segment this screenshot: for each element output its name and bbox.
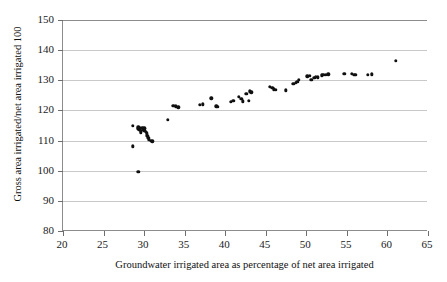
x-tick-label-65: 65 <box>412 239 442 250</box>
x-tick-label-35: 35 <box>169 239 199 250</box>
x-tick-label-20: 20 <box>47 239 77 250</box>
x-tick-label-55: 55 <box>331 239 361 250</box>
x-axis-tick-labels: 20253035404550556065 <box>0 0 447 282</box>
x-tick-label-40: 40 <box>209 239 239 250</box>
x-tick-label-45: 45 <box>250 239 280 250</box>
x-tick-label-30: 30 <box>128 239 158 250</box>
x-tick-label-25: 25 <box>88 239 118 250</box>
x-tick-label-60: 60 <box>371 239 401 250</box>
scatter-chart: Gross area irrigated/net area irrigated … <box>0 0 447 282</box>
x-tick-label-50: 50 <box>290 239 320 250</box>
x-axis-title: Groundwater irrigated area as percentage… <box>62 259 427 270</box>
